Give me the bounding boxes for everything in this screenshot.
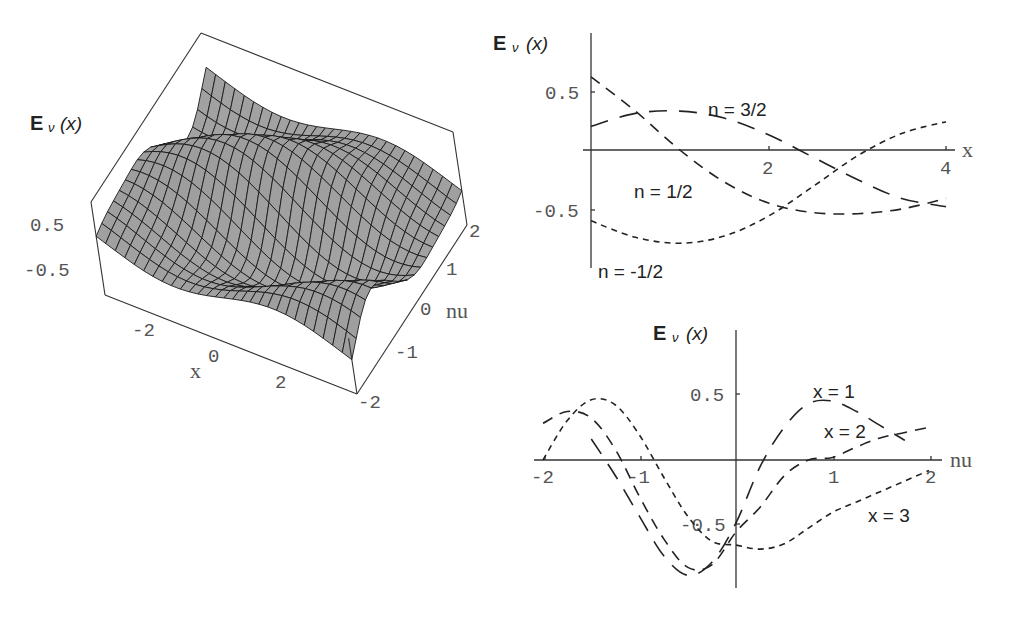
svg-text:(x): (x) (526, 33, 548, 54)
svg-text:(x): (x) (60, 113, 82, 134)
chart-x-xtick-0: 2 (762, 158, 773, 180)
surface-y-tick-0: -2 (358, 392, 381, 414)
surface-y-tick-1: -1 (395, 342, 418, 364)
chart-nu-ytick-1: -0.5 (680, 515, 726, 537)
box-edge (91, 202, 105, 295)
surface-plot: E ν (x) 0.5 -0.5 -2 0 2 x -2 -1 0 1 2 nu (24, 33, 480, 414)
surface-x-tick-1: 0 (208, 346, 219, 368)
svg-text:ν: ν (672, 330, 679, 345)
surface-x-axis-label: x (190, 358, 201, 383)
surface-x-tick-0: -2 (132, 320, 155, 342)
chart-x-xlabel: x (962, 137, 973, 162)
surface-y-tick-2: 0 (420, 299, 431, 321)
line-chart-vs-nu: E ν (x) 0.5 -0.5 -2 -1 1 2 nu x = 1 x = … (531, 322, 972, 588)
chart-x-series-label-1: n = 3/2 (708, 99, 767, 120)
chart-nu-xtick-3: 2 (925, 467, 936, 489)
chart-nu-xtick-0: -2 (531, 467, 554, 489)
chart-nu-ytick-0: 0.5 (690, 385, 724, 407)
svg-text:ν: ν (48, 120, 55, 135)
figure-canvas: E ν (x) 0.5 -0.5 -2 0 2 x -2 -1 0 1 2 nu… (0, 0, 1014, 621)
chart-nu-xtick-2: 1 (828, 467, 839, 489)
surface-y-tick-3: 1 (446, 259, 457, 281)
chart-x-ytick-0: 0.5 (545, 83, 579, 105)
chart-nu-ylabel: E ν (x) (653, 322, 708, 345)
chart-nu-xlabel: nu (950, 447, 972, 472)
box-edge (453, 132, 467, 225)
chart-nu-series-label-0: x = 1 (813, 381, 855, 402)
chart-x-series-label-2: n = -1/2 (598, 261, 663, 282)
surface-y-axis-label: nu (446, 298, 468, 323)
svg-text:E: E (30, 112, 43, 134)
surface-mesh (96, 67, 462, 359)
surface-x-tick-2: 2 (275, 372, 286, 394)
surface-y-tick-4: 2 (469, 221, 480, 243)
chart-x-series-label-0: n = 1/2 (634, 181, 693, 202)
svg-text:(x): (x) (686, 323, 708, 344)
svg-text:E: E (653, 322, 666, 344)
surface-z-tick-1: -0.5 (24, 260, 70, 282)
svg-text:E: E (493, 32, 506, 54)
chart-nu-series-label-2: x = 3 (868, 505, 910, 526)
surface-z-tick-0: 0.5 (30, 215, 64, 237)
surface-zlabel: E ν (x) (30, 112, 82, 135)
line-chart-vs-x: E ν (x) 0.5 -0.5 2 4 x n = 3/2 n = 1/2 n… (493, 32, 973, 282)
svg-text:ν: ν (512, 40, 519, 55)
chart-x-ytick-1: -0.5 (533, 201, 579, 223)
chart-nu-series-label-1: x = 2 (824, 421, 866, 442)
chart-x-ylabel: E ν (x) (493, 32, 548, 55)
chart-x-xtick-1: 4 (940, 158, 951, 180)
